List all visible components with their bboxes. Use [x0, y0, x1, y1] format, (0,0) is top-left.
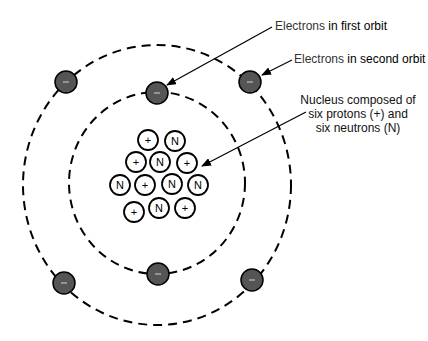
proton-icon: +: [138, 130, 158, 150]
neutron-icon: N: [188, 175, 208, 195]
first-orbit-label-electrons: Electrons: [275, 19, 325, 33]
second-orbit-arrow: [262, 60, 292, 75]
svg-text:N: N: [194, 179, 202, 191]
svg-text:N: N: [155, 202, 163, 214]
electron-icon: [146, 82, 168, 104]
neutron-icon: N: [162, 174, 182, 194]
electron-icon: [53, 272, 75, 294]
proton-icon: +: [135, 175, 155, 195]
electron-icon: [239, 71, 261, 93]
svg-text:N: N: [168, 178, 176, 190]
svg-text:N: N: [156, 156, 164, 168]
nucleus: +N+N+N+NN+N+: [110, 130, 208, 222]
second-orbit-label-electrons: Electrons: [294, 52, 344, 66]
svg-text:+: +: [142, 179, 148, 191]
neutron-icon: N: [149, 198, 169, 218]
proton-icon: +: [177, 153, 197, 173]
nucleus-label-line2: six protons (+) and: [288, 107, 428, 121]
svg-text:+: +: [131, 206, 137, 218]
electron-icon: [241, 269, 263, 291]
nucleus-label: Nucleus composed of six protons (+) and …: [288, 93, 428, 135]
svg-text:+: +: [184, 157, 190, 169]
first-orbit-label: Electrons in first orbit: [275, 19, 387, 33]
proton-icon: +: [175, 198, 195, 218]
electron-icon: [147, 263, 169, 285]
nucleus-label-line1: Nucleus composed of: [288, 93, 428, 107]
electrons: [53, 71, 263, 294]
neutron-icon: N: [150, 152, 170, 172]
neutron-icon: N: [110, 175, 130, 195]
svg-text:+: +: [133, 156, 139, 168]
svg-text:N: N: [116, 179, 124, 191]
electron-icon: [55, 71, 77, 93]
second-orbit-label-text: in second orbit: [344, 52, 425, 66]
svg-text:+: +: [145, 134, 151, 146]
svg-text:+: +: [182, 202, 188, 214]
neutron-icon: N: [165, 131, 185, 151]
first-orbit-label-text: in first orbit: [325, 19, 387, 33]
svg-text:N: N: [171, 135, 179, 147]
second-orbit-label: Electrons in second orbit: [294, 52, 425, 66]
proton-icon: +: [124, 202, 144, 222]
nucleus-label-line3: six neutrons (N): [288, 121, 428, 135]
proton-icon: +: [126, 152, 146, 172]
first-orbit: [69, 92, 245, 274]
